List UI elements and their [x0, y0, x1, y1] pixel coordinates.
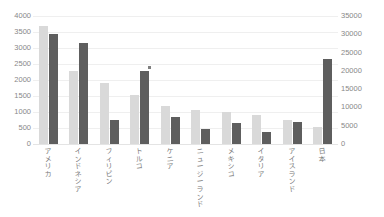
bar-group — [94, 16, 125, 144]
bar-group — [33, 16, 64, 144]
bar-group — [186, 16, 217, 144]
left-axis-tick-label: 1000 — [1, 108, 31, 116]
left-value-axis: 40003500300025002000150010005000 — [0, 16, 31, 144]
gridline — [33, 144, 338, 145]
left-axis-tick-label: 500 — [1, 124, 31, 132]
category-axis-label: 日本 — [318, 148, 327, 163]
bar-primary[interactable] — [252, 115, 261, 144]
right-axis-tick-label: 15000 — [341, 85, 375, 93]
turkey-point-marker-icon — [148, 66, 151, 69]
right-axis-tick-label: 35000 — [341, 12, 375, 20]
bar-secondary[interactable] — [110, 120, 119, 145]
bar-secondary[interactable] — [232, 123, 241, 144]
left-axis-tick-label: 2000 — [1, 76, 31, 84]
bar-group — [125, 16, 156, 144]
right-axis-tick-label: 20000 — [341, 67, 375, 75]
bar-primary[interactable] — [69, 71, 78, 144]
bar-group — [247, 16, 278, 144]
left-axis-tick-label: 2500 — [1, 60, 31, 68]
category-axis-label: アイスランド — [288, 148, 297, 194]
category-axis-label: ニュージーランド — [196, 148, 205, 209]
left-axis-tick-label: 1500 — [1, 92, 31, 100]
right-axis-tick-label: 25000 — [341, 49, 375, 57]
bar-secondary[interactable] — [49, 34, 58, 144]
right-axis-tick-label: 5000 — [341, 122, 375, 130]
bar-secondary[interactable] — [323, 59, 332, 144]
bar-primary[interactable] — [313, 127, 322, 144]
bar-group — [216, 16, 247, 144]
bar-secondary[interactable] — [171, 117, 180, 144]
bar-primary[interactable] — [222, 112, 231, 144]
bar-primary[interactable] — [191, 110, 200, 144]
category-axis-label: ケニア — [166, 148, 175, 171]
bar-group — [64, 16, 95, 144]
right-axis-tick-label: 30000 — [341, 30, 375, 38]
category-axis-label: インドネシア — [74, 148, 83, 194]
bar-secondary[interactable] — [140, 71, 149, 144]
bar-primary[interactable] — [283, 120, 292, 144]
bar-secondary[interactable] — [262, 132, 271, 144]
right-value-axis: 35000300002500020000150001000050000 — [341, 16, 381, 144]
left-axis-tick-label: 3500 — [1, 28, 31, 36]
left-axis-tick-label: 4000 — [1, 12, 31, 20]
category-axis-label: トルコ — [135, 148, 144, 171]
bar-primary[interactable] — [100, 83, 109, 144]
bar-group — [155, 16, 186, 144]
category-axis-label: アメリカ — [44, 148, 53, 178]
right-axis-tick-label: 10000 — [341, 103, 375, 111]
chart-container: 40003500300025002000150010005000 3500030… — [0, 0, 384, 217]
bar-primary[interactable] — [39, 26, 48, 144]
left-axis-tick-label: 0 — [1, 140, 31, 148]
bar-secondary[interactable] — [293, 122, 302, 144]
category-axis-label: イタリア — [257, 148, 266, 178]
bar-secondary[interactable] — [79, 43, 88, 144]
bar-primary[interactable] — [161, 106, 170, 144]
bar-group — [277, 16, 308, 144]
bar-primary[interactable] — [130, 95, 139, 144]
bar-secondary[interactable] — [201, 129, 210, 144]
category-axis-label: フィリピン — [105, 148, 114, 186]
right-axis-tick-label: 0 — [341, 140, 375, 148]
bar-group — [308, 16, 339, 144]
left-axis-tick-label: 3000 — [1, 44, 31, 52]
category-axis-label: メキシコ — [227, 148, 236, 178]
plot-area — [33, 16, 338, 144]
